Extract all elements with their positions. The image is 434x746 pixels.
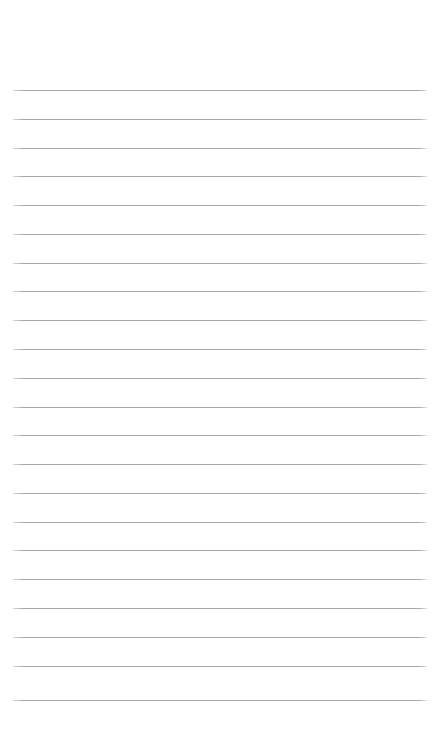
- rule-line: [13, 263, 427, 264]
- rule-line: [13, 205, 427, 206]
- rule-line: [13, 666, 427, 667]
- ruled-lines-group: [0, 0, 434, 746]
- rule-line: [13, 435, 427, 436]
- rule-line: [13, 320, 427, 321]
- rule-line: [13, 522, 427, 523]
- rule-line: [13, 637, 427, 638]
- rule-line: [13, 608, 427, 609]
- footer-area: [0, 704, 434, 746]
- rule-line: [13, 407, 427, 408]
- rule-line: [13, 176, 427, 177]
- rule-line: [13, 579, 427, 580]
- rule-line: [13, 349, 427, 350]
- rule-line: [13, 550, 427, 551]
- rule-line: [13, 291, 427, 292]
- rule-line: [13, 493, 427, 494]
- rule-line: [13, 700, 427, 701]
- rule-line: [13, 378, 427, 379]
- rule-line: [13, 464, 427, 465]
- rule-line: [13, 148, 427, 149]
- rule-line: [13, 234, 427, 235]
- rule-line: [13, 90, 427, 91]
- lined-paper-page: [0, 0, 434, 746]
- rule-line: [13, 119, 427, 120]
